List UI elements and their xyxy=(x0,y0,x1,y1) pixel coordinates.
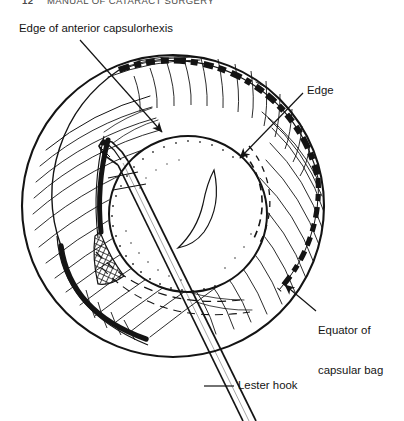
label-equator-line2: capsular bag xyxy=(318,364,383,377)
iol-optic xyxy=(109,136,267,292)
label-lester-hook: Lester hook xyxy=(238,379,298,392)
label-edge-of-anterior-capsulorhexis: Edge of anterior capsulorhexis xyxy=(19,22,173,35)
label-edge: Edge xyxy=(307,84,334,97)
label-equator-line1: Equator of xyxy=(318,324,383,337)
figure-page: 12 MANUAL OF CATARACT SURGERY xyxy=(0,0,404,421)
label-equator-of-capsular-bag: Equator of capsular bag xyxy=(318,297,383,404)
